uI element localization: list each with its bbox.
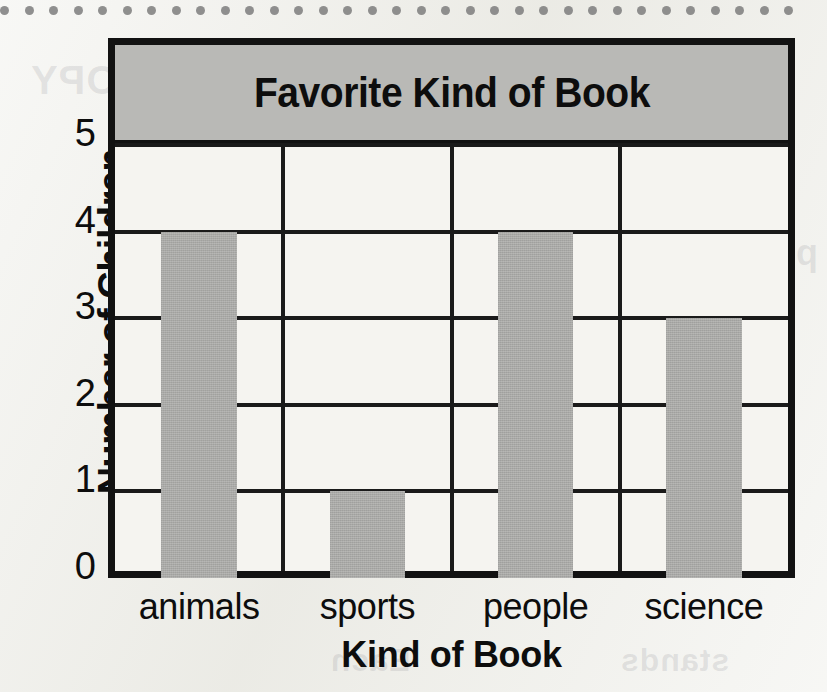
x-tick-label-animals: animals (115, 586, 283, 628)
binding-hole (686, 6, 695, 15)
binding-hole (539, 6, 548, 15)
binding-hole (245, 6, 254, 15)
binding-hole (784, 6, 793, 15)
bar-chart: Favorite Kind of Book (108, 38, 795, 578)
binding-hole (564, 6, 573, 15)
binding-hole (147, 6, 156, 15)
binding-hole (637, 6, 646, 15)
binding-hole (392, 6, 401, 15)
binding-hole (735, 6, 744, 15)
binding-hole (294, 6, 303, 15)
binding-hole (270, 6, 279, 15)
binding-hole (515, 6, 524, 15)
binding-hole (74, 6, 83, 15)
y-tick-label-1: 1 (56, 458, 96, 501)
x-axis-title: Kind of Book (108, 634, 795, 676)
bar-people (498, 232, 574, 578)
gridline-vertical-3 (618, 145, 622, 571)
binding-hole (466, 6, 475, 15)
binding-hole (441, 6, 450, 15)
binding-hole (613, 6, 622, 15)
gridline-vertical-1 (281, 145, 285, 571)
plot-area (115, 145, 788, 571)
y-tick-label-4: 4 (56, 199, 96, 242)
spiral-binding-holes (0, 2, 827, 18)
binding-hole (343, 6, 352, 15)
binding-hole (49, 6, 58, 15)
bar-sports (330, 491, 406, 578)
gridline-vertical-2 (450, 145, 454, 571)
y-tick-label-0: 0 (56, 545, 96, 588)
y-tick-label-3: 3 (56, 285, 96, 328)
bar-animals (161, 232, 237, 578)
y-tick-label-2: 2 (56, 372, 96, 415)
x-tick-label-sports: sports (283, 586, 451, 628)
binding-hole (490, 6, 499, 15)
x-tick-label-people: people (452, 586, 620, 628)
binding-hole (711, 6, 720, 15)
binding-hole (98, 6, 107, 15)
binding-hole (368, 6, 377, 15)
binding-hole (662, 6, 671, 15)
binding-hole (172, 6, 181, 15)
binding-hole (196, 6, 205, 15)
binding-hole (588, 6, 597, 15)
chart-title: Favorite Kind of Book (253, 69, 649, 117)
binding-hole (760, 6, 769, 15)
worksheet-page: COPY 10.2 picture graph violin chocolate… (0, 0, 827, 692)
binding-hole (123, 6, 132, 15)
chart-title-banner: Favorite Kind of Book (115, 45, 788, 145)
binding-hole (25, 6, 34, 15)
binding-hole (417, 6, 426, 15)
binding-hole (0, 6, 9, 15)
x-tick-label-science: science (620, 586, 788, 628)
binding-hole (319, 6, 328, 15)
bar-science (666, 318, 742, 578)
y-tick-label-5: 5 (56, 112, 96, 155)
binding-hole (221, 6, 230, 15)
